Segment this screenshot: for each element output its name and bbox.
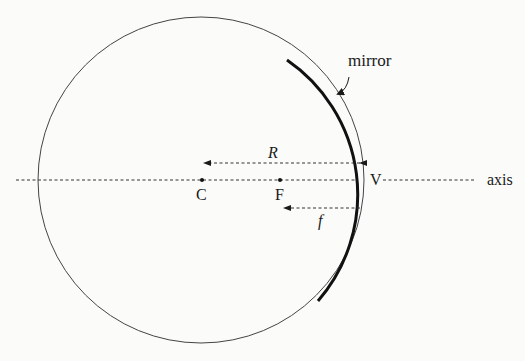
focal-arrowhead [283,205,291,211]
focal-point-label: F [275,187,284,203]
vertex-label: V [370,172,382,188]
radius-arrowhead [203,160,211,166]
mirror-pointer-arrow [338,77,349,94]
mirror-label: mirror [348,52,391,69]
center-label: C [196,187,207,203]
axis-label: axis [487,172,513,188]
mirror-diagram [0,0,525,361]
radius-label: R [268,145,278,161]
center-point-dot [200,178,204,182]
focal-length-label: f [318,213,322,229]
focal-point-dot [278,178,282,182]
